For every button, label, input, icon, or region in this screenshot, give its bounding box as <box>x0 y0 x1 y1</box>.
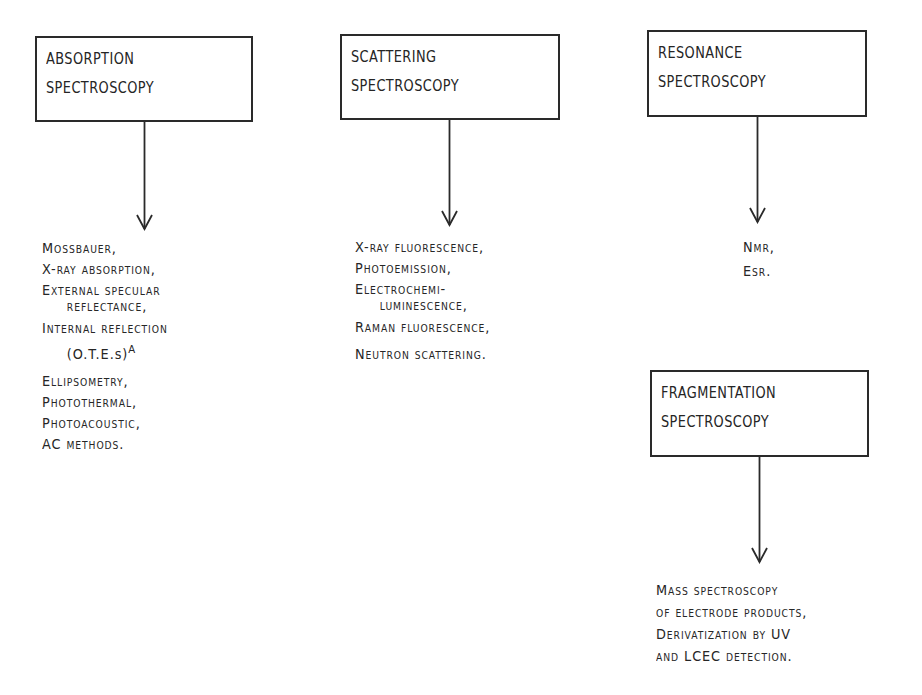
list-item: AC methods. <box>42 434 168 455</box>
absorption-methods-list: Mossbauer, X-ray absorption, External sp… <box>42 238 179 455</box>
box-title-line2: SPECTROSCOPY <box>351 77 459 95</box>
box-title-line1: ABSORPTION <box>46 50 134 68</box>
box-title-line1: FRAGMENTATION <box>661 384 776 402</box>
list-item: Mass spectroscopy <box>656 579 807 601</box>
list-item: Ellipsometry, <box>42 371 168 392</box>
list-item: of electrode products, <box>656 601 807 623</box>
box-title-line1: SCATTERING <box>351 48 436 66</box>
box-title-line2: SPECTROSCOPY <box>658 73 766 91</box>
list-item: luminescence, <box>355 297 490 313</box>
fragmentation-methods-list: Mass spectroscopy of electrode products,… <box>656 579 820 667</box>
resonance-spectroscopy-box: RESONANCE SPECTROSCOPY <box>647 30 867 117</box>
box-title-line2: SPECTROSCOPY <box>46 79 154 97</box>
absorption-spectroscopy-box: ABSORPTION SPECTROSCOPY <box>35 36 253 122</box>
box-title-line2: SPECTROSCOPY <box>661 413 769 431</box>
ote-label: (O.T.E.s) <box>67 346 128 362</box>
list-item: Photothermal, <box>42 392 168 413</box>
list-item: X-ray fluorescence, <box>355 237 490 258</box>
list-item: Esr. <box>743 259 775 283</box>
list-item: and LCEC detection. <box>656 645 807 667</box>
box-title-line1: RESONANCE <box>658 44 743 62</box>
scattering-spectroscopy-box: SCATTERING SPECTROSCOPY <box>340 34 560 120</box>
arrow-down-icon <box>747 116 769 224</box>
fragmentation-spectroscopy-box: FRAGMENTATION SPECTROSCOPY <box>650 370 869 457</box>
arrow-down-icon <box>439 119 461 227</box>
list-item: Photoemission, <box>355 258 490 279</box>
footnote-mark: A <box>128 343 136 356</box>
arrow-down-icon <box>749 456 771 564</box>
arrow-down-icon <box>134 121 156 231</box>
list-item: Photoacoustic, <box>42 413 168 434</box>
list-item: Raman fluorescence, <box>355 317 490 338</box>
list-item: Neutron scattering. <box>355 344 490 365</box>
list-item: X-ray absorption, <box>42 259 168 280</box>
scattering-methods-list: X-ray fluorescence, Photoemission, Elect… <box>355 237 502 365</box>
list-item: Derivatization by UV <box>656 623 807 645</box>
resonance-methods-list: Nmr, Esr. <box>743 235 778 283</box>
list-item: reflectance, <box>42 298 168 314</box>
list-item: Internal reflection <box>42 318 168 339</box>
list-item: Mossbauer, <box>42 238 168 259</box>
list-item: Nmr, <box>743 235 775 259</box>
list-item: (O.T.E.s)A <box>42 339 168 365</box>
